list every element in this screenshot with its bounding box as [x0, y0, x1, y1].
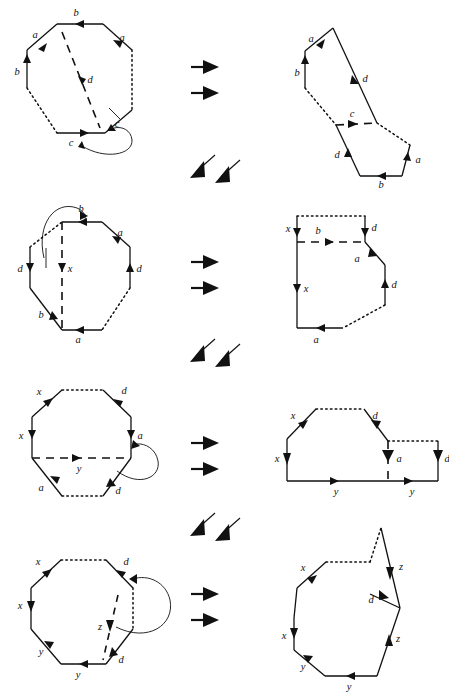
- label-x-left: x: [303, 283, 309, 294]
- label-a: a: [396, 453, 401, 464]
- label-d-top: d: [121, 385, 127, 396]
- label-x-top: x: [36, 386, 42, 397]
- label-x-left: x: [281, 630, 287, 641]
- label-z: z: [97, 621, 102, 632]
- label-y: y: [76, 463, 82, 474]
- label-d-right: d: [136, 263, 142, 274]
- label-b-left: b: [14, 66, 19, 77]
- label-y-lowerleft: y: [38, 646, 44, 657]
- label-x-top: x: [300, 562, 306, 573]
- label-d-right: d: [444, 453, 449, 464]
- label-x-left: x: [17, 600, 23, 611]
- label-a-right: a: [415, 154, 420, 165]
- label-z-right: z: [395, 633, 400, 644]
- label-a-bottom: a: [313, 334, 318, 345]
- label-d-lowerright: d: [118, 654, 124, 665]
- label-d-upper: d: [362, 73, 368, 84]
- label-x: x: [67, 263, 73, 274]
- label-a-right: a: [137, 430, 142, 441]
- label-a-lowerleft: a: [38, 482, 43, 493]
- label-d-right: d: [391, 279, 397, 290]
- label-b-lower: b: [38, 309, 43, 320]
- label-y-left: y: [333, 486, 339, 497]
- label-a: a: [308, 33, 313, 44]
- label-d-left: d: [17, 263, 23, 274]
- label-a: a: [354, 253, 359, 264]
- label-x-left: x: [274, 453, 280, 464]
- label-c: c: [350, 108, 355, 119]
- label-d-top: d: [123, 556, 129, 567]
- label-x-top: x: [290, 410, 296, 421]
- label-d: d: [368, 594, 374, 605]
- label-y-left: y: [300, 661, 306, 672]
- polygon-reduction-figure: b a a b c c d: [0, 0, 449, 697]
- label-x-top: x: [35, 556, 41, 567]
- label-c-bottom: c: [69, 137, 74, 148]
- label-a-upperright: a: [117, 227, 122, 238]
- label-d-top: d: [372, 410, 378, 421]
- label-b-top: b: [78, 203, 83, 214]
- label-b-bottom: b: [378, 179, 383, 190]
- label-x-left: x: [18, 430, 24, 441]
- label-b: b: [294, 67, 299, 78]
- label-a-bottom: a: [75, 334, 80, 345]
- label-y-bottom: y: [75, 669, 81, 680]
- label-d-lower: d: [334, 149, 340, 160]
- label-x-top: x: [285, 223, 291, 234]
- label-a-upperright: a: [119, 32, 124, 43]
- label-d-diagonal: d: [87, 74, 93, 85]
- label-a-upperleft: a: [32, 29, 37, 40]
- label-b: b: [315, 225, 320, 236]
- label-d-top: d: [371, 222, 377, 233]
- label-d-lowerright: d: [115, 485, 121, 496]
- label-y-right: y: [409, 486, 415, 497]
- label-z-top: z: [398, 561, 403, 572]
- label-y-bottom: y: [346, 681, 352, 692]
- label-c-right: c: [115, 118, 120, 129]
- label-b-top: b: [73, 7, 78, 18]
